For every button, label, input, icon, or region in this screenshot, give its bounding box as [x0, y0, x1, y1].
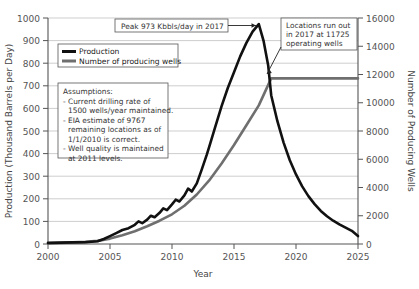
- y-tick-300: 300: [23, 172, 40, 182]
- y-tick-900: 900: [23, 36, 40, 46]
- x-tick-2000: 2000: [37, 252, 60, 262]
- y2-axis-title: Number of Producing Wells: [406, 70, 416, 192]
- assumptions-item-3: - EIA estimate of 9767: [63, 116, 146, 125]
- y-tick-500: 500: [23, 127, 40, 137]
- y2-tick-6000: 6000: [366, 155, 389, 165]
- y-tick-700: 700: [23, 81, 40, 91]
- y2-tick-14000: 14000: [366, 42, 395, 52]
- assumptions-item-1: - Current drilling rate of: [63, 97, 151, 106]
- locations-annotation-line-3: operating wells: [286, 39, 343, 48]
- peak-annotation-text: Peak 973 Kbbls/day in 2017: [121, 22, 224, 31]
- y2-tick-4000: 4000: [366, 183, 389, 193]
- chart-legend: Production Number of producing wells: [58, 44, 181, 67]
- assumptions-item-5: 1/1/2010 is correct.: [68, 135, 140, 144]
- y2-tick-2000: 2000: [366, 211, 389, 221]
- y-tick-100: 100: [23, 217, 40, 227]
- assumptions-heading: Assumptions:: [63, 87, 113, 96]
- assumptions-item-6: - Well quality is maintained: [63, 144, 164, 153]
- y-axis-title: Production (Thousand Barrels per Day): [4, 44, 14, 219]
- x-axis-title: Year: [192, 269, 212, 279]
- y2-tick-0: 0: [366, 240, 372, 250]
- production-wells-chart: 1000 900 800 700 600 500 400 300 200 100…: [0, 0, 419, 289]
- chart-container: 1000 900 800 700 600 500 400 300 200 100…: [0, 0, 419, 289]
- y-tick-0: 0: [34, 240, 40, 250]
- x-tick-2020: 2020: [285, 252, 308, 262]
- assumptions-item-7: at 2011 levels.: [68, 154, 123, 163]
- y-tick-1000: 1000: [17, 14, 40, 24]
- y-tick-200: 200: [23, 194, 40, 204]
- locations-annotation-line-2: in 2017 at 11725: [286, 30, 350, 39]
- locations-annotation-line-1: Locations run out: [286, 21, 350, 30]
- legend-label-production: Production: [79, 47, 120, 56]
- y2-tick-10000: 10000: [366, 98, 395, 108]
- y2-tick-12000: 12000: [366, 70, 395, 80]
- assumptions-item-4: remaining locations as of: [68, 125, 161, 134]
- x-tick-2010: 2010: [161, 252, 184, 262]
- x-tick-2015: 2015: [223, 252, 246, 262]
- assumptions-box: Assumptions: - Current drilling rate of …: [58, 83, 173, 163]
- y-tick-600: 600: [23, 104, 40, 114]
- y2-tick-8000: 8000: [366, 127, 389, 137]
- assumptions-item-2: 1500 wells/year maintained.: [68, 106, 173, 115]
- y-tick-800: 800: [23, 59, 40, 69]
- x-tick-2005: 2005: [99, 252, 122, 262]
- y-tick-400: 400: [23, 149, 40, 159]
- y2-tick-16000: 16000: [366, 14, 395, 24]
- x-tick-2025: 2025: [347, 252, 370, 262]
- legend-label-wells: Number of producing wells: [79, 57, 181, 66]
